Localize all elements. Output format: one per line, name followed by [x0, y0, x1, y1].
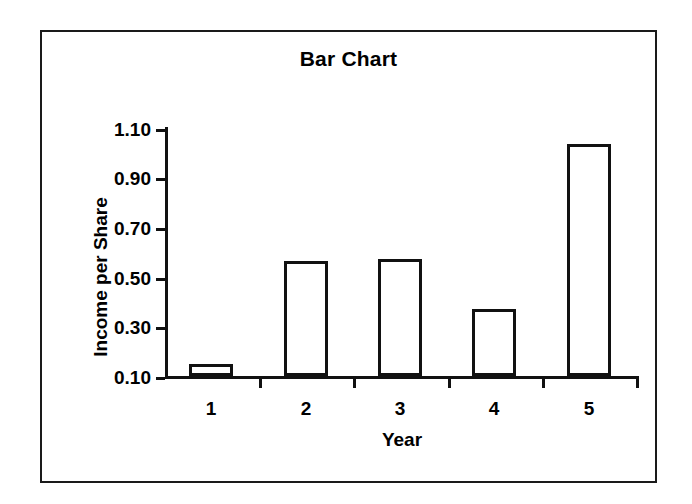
x-axis-label-2: 2: [301, 399, 312, 418]
x-axis-label-1: 1: [206, 399, 217, 418]
chart-title: Bar Chart: [42, 48, 655, 69]
y-tick-label: 0.90: [114, 169, 151, 188]
y-tick-label: 0.50: [114, 269, 151, 288]
x-tick-mark-5: [636, 379, 639, 388]
y-tick-label: 1.10: [114, 120, 151, 139]
y-axis-title-label: Income per Share: [91, 197, 110, 356]
y-tick-label: 0.30: [114, 318, 151, 337]
x-tick-mark-3: [448, 379, 451, 388]
bar-series-1: [189, 364, 233, 376]
y-axis-title: Income per Share: [87, 157, 113, 397]
x-tick-mark-1: [259, 379, 262, 388]
x-axis-title: Year: [165, 430, 639, 449]
y-axis-line: [165, 127, 168, 379]
y-tick-mark: [156, 327, 165, 330]
y-tick-mark: [156, 178, 165, 181]
y-tick-label: 0.70: [114, 219, 151, 238]
y-tick-mark: [156, 228, 165, 231]
bar-series-2: [284, 261, 328, 376]
x-axis-label-4: 4: [489, 399, 500, 418]
bar-series-4: [472, 309, 516, 376]
x-tick-mark-2: [353, 379, 356, 388]
x-axis-label-3: 3: [395, 399, 406, 418]
bar-series-3: [378, 259, 422, 376]
y-tick-label: 0.10: [114, 368, 151, 387]
x-axis-label-5: 5: [584, 399, 595, 418]
x-axis-line: [165, 376, 639, 379]
plot-area: 1.10 0.90 0.70 0.50 0.30 0.10: [165, 127, 639, 379]
y-tick-mark: [156, 129, 165, 132]
bar-series-5: [567, 144, 611, 376]
y-tick-mark: [156, 278, 165, 281]
x-tick-mark-4: [542, 379, 545, 388]
figure-frame: Bar Chart Income per Share 1.10 0.90 0.7…: [40, 30, 657, 483]
y-tick-mark: [156, 377, 165, 380]
